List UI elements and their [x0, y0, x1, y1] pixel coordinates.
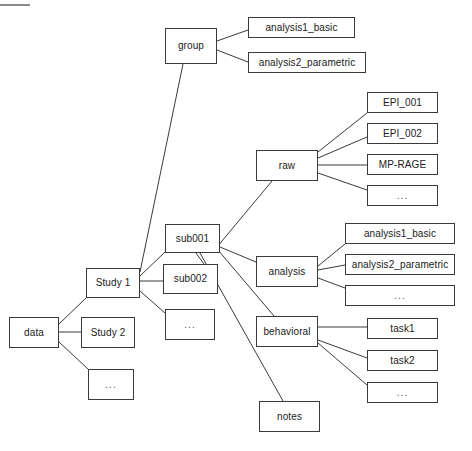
node-label-raw-ellipsis: ...: [397, 191, 408, 201]
edge-raw-to-raw-ellipsis: [318, 173, 367, 190]
node-group-analysis2[interactable]: analysis2_parametric: [248, 52, 366, 73]
node-label-raw: raw: [279, 161, 295, 171]
node-study2[interactable]: Study 2: [81, 317, 135, 348]
edge-raw-to-raw-epi002: [318, 137, 367, 158]
edge-sub001-to-analysis: [220, 247, 256, 262]
node-analysis[interactable]: analysis: [256, 256, 318, 287]
edge-analysis-to-analysis-analysis1: [318, 244, 345, 266]
node-label-behavioral-task2: task2: [390, 356, 414, 366]
node-behavioral-ellipsis[interactable]: ...: [367, 382, 438, 403]
node-sub001[interactable]: sub001: [165, 224, 220, 253]
node-label-notes: notes: [277, 412, 302, 422]
edge-group-to-group-analysis1: [217, 30, 248, 41]
node-label-raw-epi001: EPI_001: [383, 98, 422, 108]
node-label-behavioral: behavioral: [263, 327, 310, 337]
node-label-analysis-analysis2: analysis2_parametric: [352, 260, 449, 270]
node-raw-ellipsis[interactable]: ...: [367, 185, 438, 206]
node-group[interactable]: group: [165, 28, 217, 64]
node-label-sub001: sub001: [176, 234, 209, 244]
node-label-sub002: sub002: [174, 274, 207, 284]
edge-raw-to-raw-epi001: [318, 113, 367, 152]
node-data-ellipsis[interactable]: ...: [88, 369, 134, 400]
edge-analysis-to-analysis-analysis2: [318, 265, 345, 270]
node-label-group: group: [178, 41, 204, 51]
node-study1-ellipsis[interactable]: ...: [165, 309, 215, 340]
node-analysis-analysis1[interactable]: analysis1_basic: [345, 223, 455, 244]
node-label-data: data: [24, 328, 44, 338]
node-study1[interactable]: Study 1: [86, 268, 140, 298]
node-raw[interactable]: raw: [256, 150, 318, 181]
node-label-behavioral-task1: task1: [390, 324, 414, 334]
node-label-analysis-analysis1: analysis1_basic: [364, 229, 436, 239]
node-label-analysis-ellipsis: ...: [394, 291, 405, 301]
edge-behavioral-to-behavioral-task2: [318, 340, 367, 358]
node-analysis-analysis2[interactable]: analysis2_parametric: [345, 254, 455, 275]
node-behavioral-task1[interactable]: task1: [367, 318, 438, 339]
edge-study1-to-study1-ellipsis: [140, 291, 165, 313]
edge-sub001-to-sub002-link: [196, 253, 204, 264]
diagram-canvas: dataStudy 1Study 2...groupanalysis1_basi…: [0, 0, 472, 451]
node-raw-mprage[interactable]: MP-RAGE: [367, 154, 438, 175]
node-label-data-ellipsis: ...: [105, 380, 116, 390]
node-raw-epi001[interactable]: EPI_001: [367, 92, 438, 113]
node-notes[interactable]: notes: [259, 401, 320, 432]
node-label-behavioral-ellipsis: ...: [397, 388, 408, 398]
edge-group-to-group-analysis2: [217, 50, 248, 62]
node-label-raw-mprage: MP-RAGE: [379, 160, 426, 170]
edge-behavioral-to-behavioral-ellipsis: [318, 343, 367, 385]
node-behavioral-task2[interactable]: task2: [367, 350, 438, 371]
node-label-study2: Study 2: [91, 328, 126, 338]
node-label-analysis: analysis: [269, 267, 306, 277]
edge-study1-to-sub001: [140, 252, 165, 276]
node-sub002[interactable]: sub002: [163, 264, 218, 294]
node-data[interactable]: data: [9, 317, 59, 348]
node-group-analysis1[interactable]: analysis1_basic: [248, 17, 355, 38]
node-label-group-analysis2: analysis2_parametric: [259, 58, 356, 68]
node-label-study1: Study 1: [96, 278, 131, 288]
node-label-study1-ellipsis: ...: [184, 320, 195, 330]
edge-analysis-to-analysis-ellipsis: [318, 278, 345, 288]
node-label-group-analysis1: analysis1_basic: [265, 23, 337, 33]
edge-sub001-to-raw: [212, 181, 272, 253]
node-behavioral[interactable]: behavioral: [256, 316, 318, 347]
top-rule-marker: [0, 4, 30, 6]
node-raw-epi002[interactable]: EPI_002: [367, 123, 438, 144]
node-label-raw-epi002: EPI_002: [383, 129, 422, 139]
node-analysis-ellipsis[interactable]: ...: [345, 285, 455, 306]
